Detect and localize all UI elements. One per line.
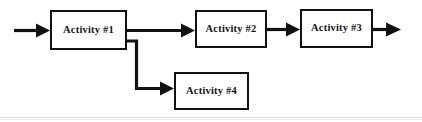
node-activity-2[interactable]: Activity #2 — [195, 10, 267, 48]
node-activity-4[interactable]: Activity #4 — [174, 72, 249, 110]
scan-artifact-line-lower — [0, 119, 422, 120]
connector-a2-to-a3 — [267, 23, 300, 37]
node-activity-3-label: Activity #3 — [311, 23, 362, 34]
scan-artifact-line-upper — [0, 117, 422, 118]
connector-a3-to-exit — [373, 23, 401, 37]
node-activity-2-label: Activity #2 — [206, 24, 257, 35]
node-activity-4-label: Activity #4 — [186, 86, 237, 97]
node-activity-1[interactable]: Activity #1 — [50, 10, 127, 50]
node-activity-1-label: Activity #1 — [63, 25, 114, 36]
connector-entry-arrow — [14, 24, 50, 38]
connector-a1-to-a2 — [127, 24, 195, 38]
node-activity-3[interactable]: Activity #3 — [300, 9, 373, 48]
activity-flow-diagram: Activity #1 Activity #2 Activity #3 Acti… — [0, 0, 422, 122]
connector-a1-to-a4 — [127, 41, 174, 96]
